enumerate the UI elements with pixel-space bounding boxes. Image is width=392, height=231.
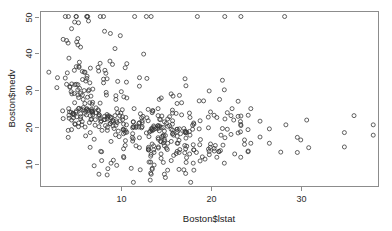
data-point (115, 163, 119, 167)
data-point (122, 147, 126, 151)
x-axis-title: Boston$lstat (183, 213, 236, 224)
data-point (187, 111, 191, 115)
data-point (223, 117, 227, 121)
data-point (73, 20, 77, 24)
x-tick-label: 10 (116, 194, 126, 204)
data-point (103, 29, 107, 33)
data-point (159, 152, 163, 156)
data-point (267, 127, 271, 131)
data-point (118, 34, 122, 38)
data-point (113, 114, 117, 118)
data-point (97, 172, 101, 176)
data-point (134, 144, 138, 148)
data-point (161, 160, 165, 164)
data-point (180, 113, 184, 117)
data-point (116, 129, 120, 133)
data-point (239, 155, 243, 159)
data-point (137, 84, 141, 88)
x-tick-label: 20 (206, 194, 216, 204)
data-point (146, 107, 150, 111)
data-points-group (47, 15, 375, 185)
data-point (177, 167, 181, 171)
data-point (104, 93, 108, 97)
data-point (115, 107, 119, 111)
data-point (166, 168, 170, 172)
data-point (114, 133, 118, 137)
data-point (195, 15, 199, 19)
data-point (65, 71, 69, 75)
data-point (239, 15, 243, 19)
data-point (212, 113, 216, 117)
data-point (66, 135, 70, 139)
data-point (170, 108, 174, 112)
data-point (86, 19, 90, 23)
data-point (105, 173, 109, 177)
plot-canvas: 102030 1020304050 Boston$lstat Boston$me… (0, 0, 392, 231)
data-point (371, 133, 375, 137)
data-point (61, 117, 65, 121)
data-point (116, 79, 120, 83)
data-point (218, 97, 222, 101)
data-point (147, 135, 151, 139)
data-point (73, 101, 77, 105)
data-point (77, 96, 81, 100)
data-point (184, 84, 188, 88)
data-point (197, 127, 201, 131)
data-point (225, 127, 229, 131)
data-point (200, 155, 204, 159)
data-point (223, 136, 227, 140)
data-point (91, 87, 95, 91)
data-point (88, 81, 92, 85)
data-point (222, 161, 226, 165)
data-point (258, 135, 262, 139)
data-point (144, 15, 148, 19)
data-point (123, 66, 127, 70)
data-point (219, 133, 223, 137)
data-point (97, 125, 101, 129)
data-point (138, 112, 142, 116)
data-point (110, 62, 114, 66)
data-point (184, 136, 188, 140)
data-point (207, 89, 211, 93)
y-tick-label: 10 (24, 159, 34, 169)
data-point (142, 52, 146, 56)
y-tick-label: 20 (24, 122, 34, 132)
data-point (47, 70, 51, 74)
data-point (284, 123, 288, 127)
data-point (192, 148, 196, 152)
data-point (283, 15, 287, 19)
data-point (249, 141, 253, 145)
data-point (203, 157, 207, 161)
data-point (220, 78, 224, 82)
data-point (55, 86, 59, 90)
data-point (129, 166, 133, 170)
data-point (295, 150, 299, 154)
data-point (152, 163, 156, 167)
data-point (221, 143, 225, 147)
data-point (108, 31, 112, 35)
data-point (98, 101, 102, 105)
data-point (198, 143, 202, 147)
data-point (191, 127, 195, 131)
data-point (229, 114, 233, 118)
data-point (79, 45, 83, 49)
data-point (121, 118, 125, 122)
data-point (258, 119, 262, 123)
data-point (82, 89, 86, 93)
data-point (307, 146, 311, 150)
data-point (145, 76, 149, 80)
data-point (230, 107, 234, 111)
data-point (131, 180, 135, 184)
scatter-plot-figure: 102030 1020304050 Boston$lstat Boston$me… (0, 0, 392, 231)
data-point (188, 152, 192, 156)
data-point (156, 107, 160, 111)
data-point (83, 101, 87, 105)
data-point (342, 131, 346, 135)
data-point (169, 139, 173, 143)
data-point (233, 152, 237, 156)
data-point (236, 114, 240, 118)
data-point (279, 150, 283, 154)
data-point (222, 88, 226, 92)
data-point (246, 113, 250, 117)
data-point (192, 168, 196, 172)
